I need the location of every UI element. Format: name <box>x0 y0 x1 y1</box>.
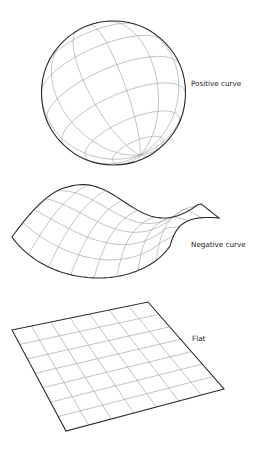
saddle-gridline <box>46 199 189 233</box>
saddle-gridline <box>23 222 174 259</box>
sphere-gridline <box>47 56 180 121</box>
negative-curve-label: Negative curve <box>191 240 246 249</box>
saddle-outline <box>12 185 219 278</box>
sphere-outline <box>42 21 186 165</box>
plane-gridline <box>43 352 192 388</box>
sphere-gridline <box>42 35 163 91</box>
flat-label: Flat <box>192 334 205 343</box>
sphere-gridline <box>62 83 186 143</box>
sphere-gridline <box>140 26 179 155</box>
sphere-gridline <box>112 136 163 161</box>
plane-gridline <box>31 326 88 425</box>
plane-gridline <box>27 327 169 359</box>
sphere-gridline <box>73 23 98 34</box>
plane-gridline <box>51 364 203 402</box>
plane-gridline <box>35 339 180 373</box>
plane-gridline <box>70 318 133 413</box>
saddle-gridline <box>117 217 155 276</box>
negative-curve-saddle <box>12 185 219 278</box>
sphere-gridline <box>106 21 159 155</box>
sphere-gridline <box>73 31 140 155</box>
flat-plane-grid <box>12 302 224 431</box>
plane-gridline <box>58 377 213 417</box>
saddle-gridline <box>138 217 174 271</box>
curvature-diagram <box>0 0 263 464</box>
positive-curve-sphere <box>42 21 186 165</box>
plane-gridline <box>51 322 111 419</box>
saddle-gridline <box>156 206 196 261</box>
plane-gridline <box>20 314 159 344</box>
sphere-gridline <box>90 25 140 155</box>
positive-curve-label: Positive curve <box>191 79 241 88</box>
saddle-gridline <box>28 185 88 254</box>
